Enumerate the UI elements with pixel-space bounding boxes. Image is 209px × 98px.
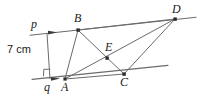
point-label-A: A	[61, 81, 68, 93]
distance-segment-pq	[47, 34, 50, 80]
vertex-point-E	[105, 56, 108, 59]
point-label-C: C	[120, 76, 128, 88]
point-label-B: B	[74, 12, 81, 24]
vertex-point-B	[76, 28, 79, 31]
direction-arrow-p	[48, 31, 57, 35]
segment-BC	[78, 30, 124, 74]
segment-BD	[78, 19, 175, 30]
vertex-point-D	[173, 17, 176, 20]
point-label-E: E	[105, 41, 112, 53]
point-label-D: D	[172, 3, 181, 15]
geometry-figure: A B C D E p q 7 cm	[0, 0, 209, 98]
line-label-p: p	[31, 18, 37, 30]
distance-label: 7 cm	[7, 44, 31, 55]
line-label-q: q	[44, 81, 50, 93]
segment-AB	[65, 30, 78, 79]
